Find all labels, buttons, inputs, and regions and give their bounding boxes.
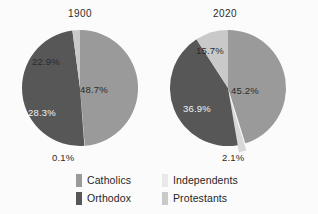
legend-label-protestants: Protestants <box>173 192 227 204</box>
chart-title-2020: 2020 <box>175 8 275 19</box>
legend-item-catholics: Catholics <box>76 171 154 189</box>
legend-swatch-orthodox-icon <box>76 192 82 205</box>
value-label-1900-catholics: 48.7% <box>80 84 108 95</box>
legend-swatch-catholics-icon <box>76 174 82 187</box>
value-label-2020-catholics: 45.2% <box>231 85 259 96</box>
legend-label-independents: Independents <box>173 174 238 186</box>
pie-chart-figure: 1900 2020 48.7% 22.9% 28.3% 0.1% <box>0 0 318 214</box>
value-label-2020-orthodox: 36.9% <box>183 103 211 114</box>
legend-item-protestants: Protestants <box>162 189 306 207</box>
legend-item-independents: Independents <box>162 171 306 189</box>
legend: Catholics Independents Orthodox Protesta… <box>76 171 306 207</box>
chart-title-1900: 1900 <box>30 8 130 19</box>
value-label-2020-independents: 15.7% <box>196 45 224 56</box>
legend-label-orthodox: Orthodox <box>87 192 131 204</box>
pie-1900-svg <box>12 26 152 176</box>
legend-label-catholics: Catholics <box>87 174 131 186</box>
value-label-1900-independents: 0.1% <box>52 152 74 163</box>
value-label-2020-protestants: 2.1% <box>222 152 244 163</box>
value-label-1900-orthodox: 28.3% <box>28 107 56 118</box>
legend-item-orthodox: Orthodox <box>76 189 154 207</box>
legend-swatch-protestants-icon <box>162 192 168 205</box>
value-label-1900-protestants: 22.9% <box>32 56 60 67</box>
pie-chart-1900 <box>12 26 152 176</box>
legend-swatch-independents-icon <box>162 174 168 187</box>
